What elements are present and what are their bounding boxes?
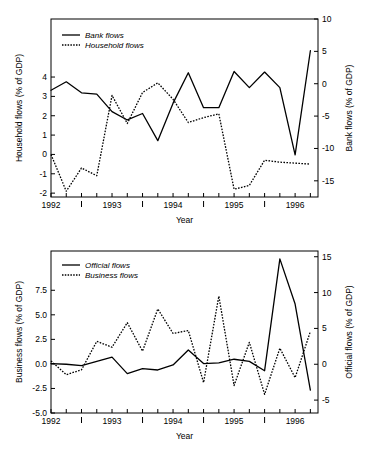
x-tick-label: 1995 [225,200,244,210]
y-left-tick-label: 7.5 [35,285,47,295]
y-right-tick-label: 15 [322,252,332,262]
legend-label-official-flows: Official flows [85,261,130,270]
y-left-tick-label: -2.5 [32,383,47,393]
y-right-tick-label: 5 [322,323,327,333]
y-left-tick-label: 3 [42,91,47,101]
x-tick-label: 1994 [164,416,183,426]
figure-root: 1992199319941995199643210-1-21050-5-10-1… [0,0,376,466]
y-right-tick-label: -10 [322,143,335,153]
legend-label-bank-flows: Bank flows [85,31,124,40]
y-left-tick-label: 5.0 [35,310,47,320]
y-right-tick-label: -5 [322,111,330,121]
y-right-tick-label: 0 [322,79,327,89]
x-tick-label: 1996 [286,200,305,210]
y-right-tick-label: -5 [322,395,330,405]
y-left-tick-label: 1 [42,130,47,140]
y-right-axis-title: Official flows (% of GDP) [344,285,354,379]
y-right-tick-label: 5 [322,46,327,56]
series-line-bank-flows [51,51,310,155]
y-right-axis-title: Bank flows (% of GDP) [344,64,354,151]
y-left-tick-label: -5.0 [32,408,47,418]
y-right-tick-label: 0 [322,359,327,369]
y-left-tick-label: -1 [39,169,47,179]
chart-panel-top: 1992199319941995199643210-1-21050-5-10-1… [0,0,376,233]
y-left-tick-label: 0.0 [35,359,47,369]
x-axis-title: Year [176,431,193,441]
chart-svg-bottom: 199219931994199519967.55.02.50.0-2.5-5.0… [0,233,376,466]
y-left-tick-label: 2.5 [35,334,47,344]
y-right-tick-label: 10 [322,14,332,24]
y-right-tick-label: 10 [322,288,332,298]
x-tick-label: 1992 [42,200,61,210]
chart-panel-bottom: 199219931994199519967.55.02.50.0-2.5-5.0… [0,233,376,466]
y-left-axis-title: Household flows (% of GDP) [14,54,24,162]
x-axis-title: Year [176,215,193,225]
legend-label-household-flows: Household flows [85,41,144,50]
x-tick-label: 1995 [225,416,244,426]
y-right-tick-label: -15 [322,176,335,186]
y-left-tick-label: 2 [42,111,47,121]
y-left-tick-label: -2 [39,188,47,198]
chart-svg-top: 1992199319941995199643210-1-21050-5-10-1… [0,0,376,233]
y-left-axis-title: Business flows (% of GDP) [14,281,24,383]
y-left-tick-label: 4 [42,72,47,82]
y-left-tick-label: 0 [42,149,47,159]
x-tick-label: 1994 [164,200,183,210]
series-line-business-flows [51,296,310,394]
x-tick-label: 1993 [103,200,122,210]
x-tick-label: 1996 [286,416,305,426]
legend-label-business-flows: Business flows [85,271,138,280]
x-tick-label: 1993 [103,416,122,426]
series-line-household-flows [51,83,310,191]
